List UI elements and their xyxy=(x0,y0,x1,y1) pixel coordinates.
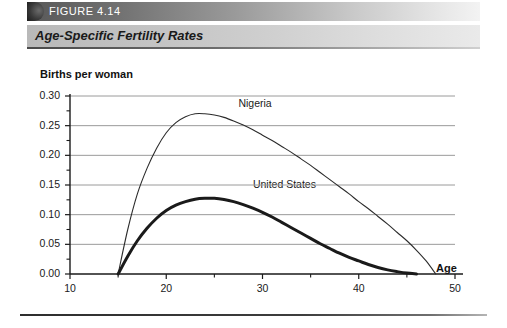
plot-canvas xyxy=(0,52,507,300)
figure-bottom-rule xyxy=(20,314,487,316)
series-line-united-states xyxy=(118,198,416,274)
figure-bullet-icon xyxy=(27,2,44,21)
figure-title: Age-Specific Fertility Rates xyxy=(35,28,203,43)
chart: Births per woman Age 0.000.050.100.150.2… xyxy=(0,52,507,300)
figure-container: FIGURE 4.14 Age-Specific Fertility Rates… xyxy=(0,0,507,328)
figure-title-bar: Age-Specific Fertility Rates xyxy=(27,25,480,47)
figure-title-rule xyxy=(27,47,480,49)
series-line-nigeria xyxy=(118,114,436,274)
figure-badge-bar: FIGURE 4.14 xyxy=(27,2,480,21)
figure-number-label: FIGURE 4.14 xyxy=(49,5,121,17)
